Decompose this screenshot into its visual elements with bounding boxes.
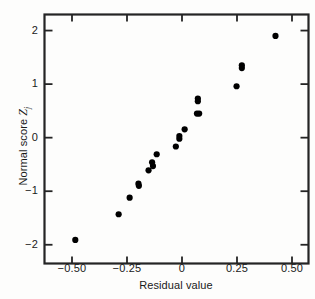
data-point [150,163,156,169]
x-tick-label: 0 [160,262,204,274]
x-tick-label: 0.50 [270,262,314,274]
y-tick-label: 0 [18,131,38,143]
data-point [176,133,182,139]
y-tick-label: 2 [18,24,38,36]
normal-probability-plot: Normal score Zj Residual value −0.50−0.2… [0,0,315,299]
y-tick-label: 1 [18,77,38,89]
data-point [195,95,201,101]
data-point [116,211,122,217]
data-point [272,33,278,39]
data-point [239,62,245,68]
x-tick-label: −0.25 [105,262,149,274]
data-point [233,83,239,89]
plot-canvas [0,0,315,299]
data-point [196,110,202,116]
y-tick-label: −1 [18,184,38,196]
y-tick-label: −2 [18,238,38,250]
data-point [182,126,188,132]
data-point [72,237,78,243]
data-point [173,143,179,149]
x-tick-label: −0.50 [50,262,94,274]
data-point [136,183,142,189]
data-points [72,33,278,243]
data-point [154,151,160,157]
data-point [127,195,133,201]
x-tick-label: 0.25 [215,262,259,274]
